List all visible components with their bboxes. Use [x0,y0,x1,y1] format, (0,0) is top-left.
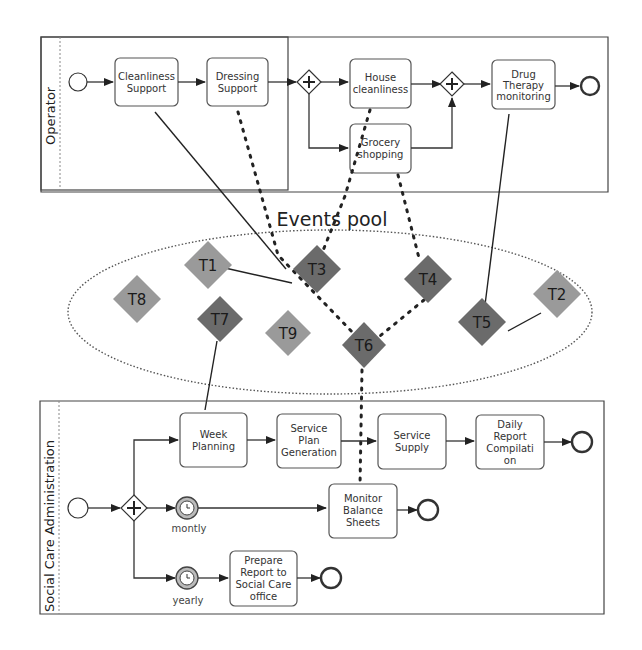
svg-text:Support: Support [127,83,167,94]
svg-text:Dressing: Dressing [216,71,260,82]
task-dressing-support[interactable]: Dressing Support [207,58,268,106]
social-start-event[interactable] [68,498,88,518]
task-service-plan-generation[interactable]: Service Plan Generation [277,414,341,468]
task-label: Support [218,83,258,94]
svg-text:Week: Week [200,429,228,440]
task-label: Planning [192,441,235,452]
event-label: T7 [210,311,230,329]
timer-monthly[interactable] [176,497,198,519]
task-label: Service [394,430,431,441]
assoc-t5-t2 [508,313,541,331]
svg-text:shopping: shopping [358,149,404,160]
prepare-report-end-event[interactable] [321,568,341,588]
svg-text:monitoring: monitoring [496,91,551,102]
task-label: shopping [358,149,404,160]
svg-text:Social Care: Social Care [236,579,292,590]
event-label: T2 [547,286,567,304]
monitor-end-event[interactable] [418,500,438,520]
task-daily-report-compilation[interactable]: Daily Report Compilati on [476,415,544,469]
task-label: Dressing [216,71,260,82]
parallel-gateway-join[interactable] [440,72,464,96]
svg-text:Compilati: Compilati [486,443,534,454]
operator-start-event[interactable] [69,73,87,91]
event-t7[interactable]: T7 [197,296,243,342]
event-label: T4 [418,271,438,289]
svg-text:Drug: Drug [511,69,536,80]
timer-yearly-label: yearly [172,595,203,606]
social-lane-label: Social Care Administration [42,440,57,612]
svg-text:Prepare: Prepare [244,555,282,566]
task-monitor-balance-sheets[interactable]: Monitor Balance Sheets [329,484,397,538]
task-label: on [504,455,516,466]
event-label: T6 [354,337,374,355]
task-label: Generation [281,447,337,458]
svg-text:Grocery: Grocery [361,137,401,148]
task-label: Social Care [236,579,292,590]
event-t8[interactable]: T8 [113,275,161,323]
task-label: Report to [240,567,286,578]
event-label: T9 [278,325,298,343]
event-label: T3 [307,261,327,279]
event-label: T1 [198,257,218,275]
event-t4[interactable]: T4 [404,255,452,303]
timer-monthly-label: montly [172,523,207,534]
svg-text:Generation: Generation [281,447,337,458]
task-label: Grocery [361,137,401,148]
event-t9[interactable]: T9 [265,310,311,356]
dep-t6-monitor [360,370,362,486]
task-service-supply[interactable]: Service Supply [378,414,446,469]
task-label: Therapy [502,80,544,91]
assoc-t1-t3 [225,268,292,283]
task-label: Report [493,431,526,442]
task-cleanliness-support[interactable]: Cleanliness Support [115,58,178,106]
svg-text:on: on [504,455,516,466]
svg-text:Report: Report [493,431,526,442]
task-label: Compilati [486,443,534,454]
task-label: Supply [395,442,429,453]
task-label: Monitor [344,493,383,504]
task-label: Sheets [346,517,380,528]
svg-text:office: office [250,591,277,602]
parallel-gateway-split[interactable] [297,70,321,94]
svg-text:Support: Support [218,83,258,94]
svg-text:Service: Service [394,430,431,441]
dep-t4-t6 [380,300,424,336]
event-label: T8 [127,291,147,309]
svg-text:Daily: Daily [497,419,522,430]
task-label: Support [127,83,167,94]
task-week-planning[interactable]: Week Planning [180,413,247,467]
daily-report-end-event[interactable] [572,432,592,452]
event-t5[interactable]: T5 [458,298,506,346]
event-t1[interactable]: T1 [184,241,232,289]
task-prepare-report[interactable]: Prepare Report to Social Care office [230,551,297,606]
events-pool-label: Events pool [277,208,388,230]
svg-text:Sheets: Sheets [346,517,380,528]
task-label: office [250,591,277,602]
task-grocery-shopping[interactable]: Grocery shopping [350,124,411,173]
task-label: Balance [343,505,383,516]
operator-end-event[interactable] [581,77,599,95]
event-label: T5 [472,314,492,332]
event-t3[interactable]: T3 [293,245,341,293]
task-house-cleanliness[interactable]: House cleanliness [350,59,411,108]
task-label: House [365,72,396,83]
social-parallel-gateway[interactable] [121,495,147,521]
task-label: Prepare [244,555,282,566]
svg-text:Report to: Report to [240,567,286,578]
assoc-t7-week [205,341,217,410]
svg-text:Supply: Supply [395,442,429,453]
task-label: cleanliness [353,84,408,95]
task-label: Week [200,429,228,440]
svg-text:Monitor: Monitor [344,493,383,504]
task-drug-therapy-monitoring[interactable]: Drug Therapy monitoring [492,60,555,109]
svg-text:Service: Service [291,423,328,434]
svg-text:cleanliness: cleanliness [353,84,408,95]
event-t2[interactable]: T2 [533,270,581,318]
svg-text:Therapy: Therapy [502,80,544,91]
timer-yearly[interactable] [176,567,198,589]
svg-text:House: House [365,72,396,83]
operator-lane-label: Operator [43,86,58,145]
task-label: monitoring [496,91,551,102]
svg-text:Planning: Planning [192,441,235,452]
task-label: Cleanliness [118,71,175,82]
